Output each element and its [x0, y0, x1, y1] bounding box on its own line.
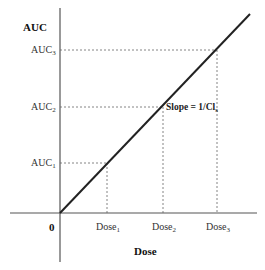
y-axis-title: AUC [23, 22, 47, 33]
origin-label: 0 [49, 222, 55, 233]
y-tick-auc3: AUC3 [31, 45, 56, 57]
y-tick-auc1: AUC1 [31, 158, 56, 170]
x-tick-dose1: Dose1 [96, 222, 120, 234]
x-tick-dose3: Dose3 [206, 222, 230, 234]
auc-dose-line [60, 14, 250, 213]
slope-annotation: Slope = 1/Cls [166, 103, 218, 114]
x-tick-dose2: Dose2 [152, 222, 176, 234]
x-axis-title: Dose [134, 246, 157, 257]
y-tick-auc2: AUC2 [31, 102, 56, 114]
